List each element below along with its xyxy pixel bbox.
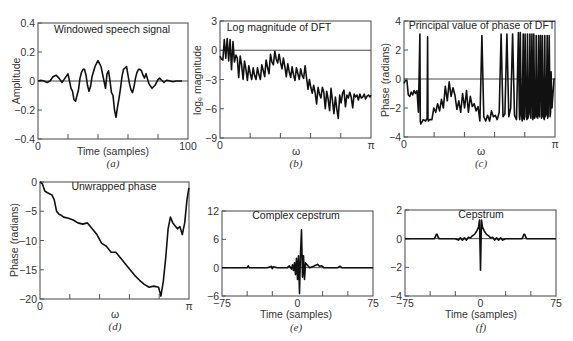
panel-b: 30−3−6−90π Log magnitude of DFT ω logₑ m… [191,15,375,170]
y-tick-label: 0 [31,176,37,188]
x-tick-label: −75 [396,297,414,309]
panel-c: 420−2−40π Principal value of phase of DF… [379,15,559,170]
y-tick-label: 0.2 [20,46,35,58]
x-tick-label: 75 [367,297,379,309]
panel-c-ylabel: Phase (radians) [379,43,391,117]
panel-a: 0.40.20−0.2−0.40100 Windowed speech sign… [10,17,197,170]
x-tick-label: π [367,139,374,151]
y-tick-label: 6 [213,233,219,245]
panel-c-xlabel: ω [477,145,485,157]
x-tick-label: −75 [213,297,231,309]
panel-b-plot: 30−3−6−90π [205,15,375,151]
y-tick-label: −15 [19,264,37,276]
data-curve [222,230,373,294]
plot-frame [222,211,373,296]
panel-c-plot: 420−2−40π [389,15,559,150]
y-tick-label: 0 [211,44,217,56]
panel-f-letter: (f) [476,321,487,334]
panel-d-xlabel: ω [111,308,119,320]
y-tick-label: 0 [395,73,401,85]
panel-c-letter: (c) [475,157,488,170]
panel-c-title: Principal value of phase of DFT [409,19,556,31]
x-tick-label: 0 [401,138,407,150]
y-tick-label: 0 [213,262,219,274]
y-tick-label: −3 [205,74,217,86]
y-tick-label: −6 [205,103,217,115]
panel-a-ylabel: Amplitude [10,58,22,105]
x-tick-label: 75 [550,297,562,309]
panel-e-title: Complex cepstrum [252,209,340,221]
x-tick-label: π [185,300,192,312]
data-curve [40,182,189,296]
figure: 0.40.20−0.2−0.40100 Windowed speech sign… [0,0,573,341]
y-tick-label: 0 [396,233,402,245]
x-tick-label: 100 [179,140,197,152]
panel-e: 1260−6−75075 Complex cepstrum Time (samp… [207,205,379,334]
y-tick-label: 12 [207,205,219,217]
panel-a-xlabel: Time (samples) [77,145,149,157]
panel-f: 20−2−4−75075 Cepstrum Time (samples) (f) [390,204,562,334]
panel-b-letter: (b) [290,157,303,170]
panel-d-plot: 0−5−10−15−200π [19,176,192,312]
panel-a-title: Windowed speech signal [54,23,170,35]
y-tick-label: −20 [19,293,37,305]
panel-a-letter: (a) [107,157,120,170]
data-curve [405,220,556,270]
x-tick-label: 0 [217,139,223,151]
x-tick-label: 0 [37,300,43,312]
y-tick-label: 2 [395,44,401,56]
y-tick-label: 3 [211,15,217,27]
panel-d-title: Unwrapped phase [71,180,156,192]
y-tick-label: −10 [19,235,37,247]
panel-f-title: Cepstrum [458,208,504,220]
y-tick-label: −0.2 [14,104,35,116]
y-tick-label: −0.4 [14,133,35,145]
y-tick-label: −9 [205,132,217,144]
panel-b-xlabel: ω [292,145,300,157]
y-tick-label: −5 [25,205,37,217]
y-tick-label: 4 [395,15,401,27]
panel-b-title: Log magnitude of DFT [227,21,332,33]
x-tick-label: π [551,138,558,150]
panel-d-ylabel: Phase (radians) [8,203,20,277]
panel-a-plot: 0.40.20−0.2−0.40100 [14,17,197,152]
panel-e-letter: (e) [290,321,303,334]
y-tick-label: 0.4 [20,17,35,29]
panel-e-xlabel: Time (samples) [260,308,332,320]
data-curve [38,61,182,118]
y-tick-label: −4 [389,131,401,143]
panel-b-ylabel: logₑ magnitude [191,45,203,115]
y-tick-label: 2 [396,204,402,216]
y-tick-label: −2 [390,261,402,273]
panel-d: 0−5−10−15−200π Unwrapped phase ω Phase (… [8,176,193,333]
panel-d-letter: (d) [109,320,122,333]
x-tick-label: 0 [35,140,41,152]
panel-f-xlabel: Time (samples) [445,308,517,320]
data-curve [404,33,555,124]
y-tick-label: 0 [29,75,35,87]
